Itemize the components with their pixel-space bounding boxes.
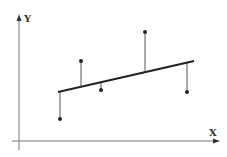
data-point-icon xyxy=(99,88,103,92)
data-point-icon xyxy=(58,117,62,121)
regression-line xyxy=(58,61,194,92)
y-axis-arrow-icon xyxy=(17,14,22,21)
residual-diagram: Y X xyxy=(0,0,227,157)
x-axis-label: X xyxy=(209,127,217,138)
residuals xyxy=(60,32,187,119)
x-axis-arrow-icon xyxy=(213,139,220,144)
y-axis-label: Y xyxy=(23,13,32,24)
data-point-icon xyxy=(143,30,147,34)
data-point-icon xyxy=(185,90,189,94)
data-point-icon xyxy=(79,59,83,63)
data-points xyxy=(58,30,189,121)
